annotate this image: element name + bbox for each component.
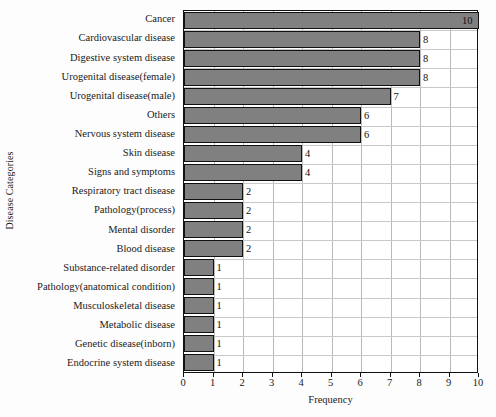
bar-value-label: 6: [364, 110, 369, 121]
bar-row: 1: [184, 277, 477, 296]
bar: [184, 126, 361, 143]
x-axis-tick-label: 4: [298, 378, 303, 389]
bar-value-label: 2: [246, 224, 251, 235]
bar-value-label: 2: [246, 186, 251, 197]
bar: [184, 202, 243, 219]
bar-value-label: 2: [246, 243, 251, 254]
bar-row: 8: [184, 49, 477, 68]
x-axis-tick-label: 2: [239, 378, 244, 389]
category-label: Others: [18, 106, 179, 125]
bar-value-label: 1: [217, 300, 222, 311]
bar: [184, 183, 243, 200]
category-label: Cancer: [18, 10, 179, 29]
x-axis-tick-label: 3: [269, 378, 274, 389]
category-label: Nervous system disease: [18, 125, 179, 144]
category-label: Cardiovascular disease: [18, 29, 179, 48]
bar: [184, 12, 479, 29]
bar-row: 1: [184, 353, 477, 372]
bar-row: 8: [184, 68, 477, 87]
bar-value-label: 1: [217, 338, 222, 349]
bar: [184, 297, 214, 314]
bar: [184, 31, 420, 48]
bar-row: 4: [184, 163, 477, 182]
category-label: Respiratory tract disease: [18, 182, 179, 201]
category-label: Endocrine system disease: [18, 354, 179, 373]
category-label: Genetic disease(inborn): [18, 335, 179, 354]
bar-row: 1: [184, 258, 477, 277]
x-axis-tick-label: 0: [180, 378, 185, 389]
x-axis-tick-label: 10: [473, 378, 484, 389]
bar-row: 8: [184, 30, 477, 49]
bar: [184, 221, 243, 238]
bar: [184, 69, 420, 86]
bar-row: 10: [184, 11, 477, 30]
bar-value-label: 1: [217, 319, 222, 330]
bar: [184, 316, 214, 333]
y-axis-title: Disease Categories: [0, 0, 18, 380]
bar: [184, 164, 302, 181]
category-label: Signs and symptoms: [18, 163, 179, 182]
bar: [184, 259, 214, 276]
bar-value-label: 4: [305, 167, 310, 178]
bar-chart: Disease Categories CancerCardiovascular …: [0, 0, 496, 417]
bar-value-label: 8: [423, 53, 428, 64]
bar-value-label: 1: [217, 357, 222, 368]
category-label: Pathology(process): [18, 201, 179, 220]
bar-row: 2: [184, 182, 477, 201]
category-label: Blood disease: [18, 239, 179, 258]
bar-value-label: 4: [305, 148, 310, 159]
category-axis-labels: CancerCardiovascular diseaseDigestive sy…: [18, 10, 179, 373]
x-axis-tick-label: 7: [387, 378, 392, 389]
bar-value-label: 2: [246, 205, 251, 216]
bar-row: 6: [184, 106, 477, 125]
bar-row: 6: [184, 125, 477, 144]
category-label: Metabolic disease: [18, 316, 179, 335]
bar-row: 1: [184, 296, 477, 315]
x-axis-title: Frequency: [183, 394, 478, 405]
bar-row: 7: [184, 87, 477, 106]
bar: [184, 88, 391, 105]
bar: [184, 145, 302, 162]
bar-row: 2: [184, 220, 477, 239]
bar: [184, 107, 361, 124]
bar-value-label: 8: [423, 34, 428, 45]
category-label: Digestive system disease: [18, 48, 179, 67]
x-axis-tick-label: 9: [446, 378, 451, 389]
category-label: Skin disease: [18, 144, 179, 163]
category-label: Urogenital disease(female): [18, 67, 179, 86]
bar-row: 2: [184, 239, 477, 258]
category-label: Pathology(anatomical condition): [18, 278, 179, 297]
bar-value-label: 1: [217, 262, 222, 273]
y-axis-title-text: Disease Categories: [4, 151, 15, 229]
bar-value-label: 8: [423, 72, 428, 83]
bar: [184, 240, 243, 257]
x-axis-tick-label: 5: [328, 378, 333, 389]
x-axis-tick-label: 1: [210, 378, 215, 389]
bars-layer: 10888766442222111111: [184, 11, 477, 372]
category-label: Urogenital disease(male): [18, 86, 179, 105]
bar-row: 1: [184, 334, 477, 353]
x-axis-tick-labels: 012345678910: [183, 378, 478, 392]
bar-value-label: 7: [394, 91, 399, 102]
bar-row: 2: [184, 201, 477, 220]
bar-value-label: 6: [364, 129, 369, 140]
bar: [184, 278, 214, 295]
bar-value-label: 10: [462, 15, 473, 26]
x-axis-tick-label: 6: [357, 378, 362, 389]
category-label: Mental disorder: [18, 220, 179, 239]
bar: [184, 335, 214, 352]
bar: [184, 354, 214, 371]
bar-row: 4: [184, 144, 477, 163]
plot-area: 10888766442222111111: [183, 10, 478, 373]
bar: [184, 50, 420, 67]
bar-row: 1: [184, 315, 477, 334]
category-label: Musculoskeletal disease: [18, 297, 179, 316]
category-label: Substance-related disorder: [18, 258, 179, 277]
x-axis-tick-label: 8: [416, 378, 421, 389]
bar-value-label: 1: [217, 281, 222, 292]
